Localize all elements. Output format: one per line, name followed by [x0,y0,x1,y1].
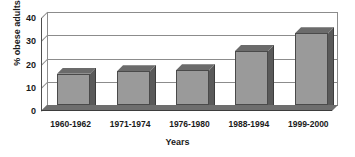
x-tick-label: 1971-1974 [100,119,159,129]
obesity-bar-chart: % obese adults 403020100 1960-19621971-1… [0,0,355,157]
bar [295,27,328,105]
x-axis-tick-labels: 1960-19621971-19741976-19801988-19941999… [41,119,338,131]
bar [235,45,268,105]
bar-front-face [117,71,150,105]
bar-side-face [328,27,334,105]
y-axis-line [41,18,42,111]
bar-side-face [150,65,156,105]
bar [176,64,209,105]
bar-front-face [57,74,90,105]
bar-side-face [268,45,274,105]
x-axis-title: Years [0,137,355,147]
y-tick-label: 20 [16,61,36,70]
x-tick-label: 1999-2000 [279,119,338,129]
bar-front-face [295,33,328,105]
x-tick-label: 1976-1980 [160,119,219,129]
plot-area [41,12,338,111]
bar-front-face [176,70,209,105]
bar-front-face [235,51,268,105]
x-tick-label: 1988-1994 [219,119,278,129]
y-tick-label: 40 [16,14,36,23]
x-axis-line [41,110,332,111]
y-tick-label: 30 [16,37,36,46]
bar-side-face [209,64,215,105]
y-tick-label: 0 [16,107,36,116]
y-axis-tick-labels: 403020100 [14,0,36,157]
bar [117,65,150,105]
gridline [47,12,338,13]
y-tick-label: 10 [16,84,36,93]
x-tick-label: 1960-1962 [41,119,100,129]
bar-side-face [90,68,96,105]
bar [57,68,90,105]
